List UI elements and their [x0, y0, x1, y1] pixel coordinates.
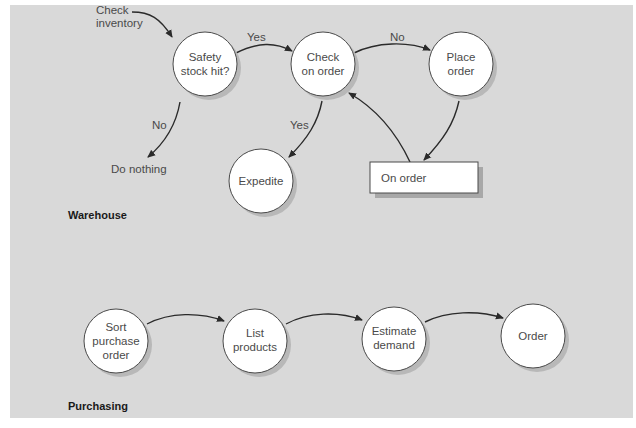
node-place-order: Place order — [429, 32, 497, 100]
node-label: Order — [518, 330, 548, 342]
node-label: products — [233, 341, 277, 353]
section-label-purchasing: Purchasing — [68, 400, 128, 412]
node-safety-stock-hit: Safety stock hit? — [173, 32, 241, 100]
label-yes: Yes — [290, 119, 309, 131]
node-label: order — [448, 65, 475, 77]
box-label: On order — [381, 172, 427, 184]
node-label: demand — [373, 339, 415, 351]
edge-check-to-place-no — [354, 44, 430, 53]
node-sort-purchase-order: Sort purchase order — [84, 309, 152, 377]
node-label: Estimate — [372, 325, 417, 337]
node-expedite: Expedite — [229, 149, 297, 217]
node-estimate-demand: Estimate demand — [362, 307, 430, 375]
label-no: No — [152, 119, 167, 131]
node-label: Place — [447, 51, 476, 63]
node-label: on order — [302, 65, 345, 77]
node-label: order — [103, 349, 130, 361]
label-yes: Yes — [247, 31, 266, 43]
process-flow-diagram: Safety stock hit? Check on order Place o… — [0, 0, 636, 428]
node-label: stock hit? — [181, 65, 230, 77]
node-label: Expedite — [239, 175, 284, 187]
label-check-inventory: inventory — [96, 17, 143, 29]
node-list-products: List products — [223, 309, 291, 377]
node-label: purchase — [92, 335, 139, 347]
edge-place-to-onorder — [424, 101, 459, 160]
edge-onorder-to-check — [349, 93, 410, 162]
node-label: List — [246, 327, 265, 339]
label-no: No — [390, 31, 405, 43]
edge-list-to-estimate — [286, 314, 362, 324]
node-label: Sort — [105, 321, 127, 333]
node-label: Safety — [189, 51, 222, 63]
edge-estimate-to-order — [425, 313, 503, 322]
label-do-nothing: Do nothing — [111, 163, 167, 175]
label-check-inventory: Check — [96, 4, 129, 16]
section-label-warehouse: Warehouse — [68, 209, 127, 221]
node-check-on-order: Check on order — [291, 32, 359, 100]
edge-safety-to-check-yes — [236, 44, 292, 53]
edge-sort-to-list — [147, 315, 224, 324]
node-label: Check — [307, 51, 340, 63]
node-order: Order — [501, 304, 569, 372]
box-on-order: On order — [370, 162, 483, 198]
